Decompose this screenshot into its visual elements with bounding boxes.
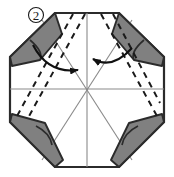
origami-step-figure: 2 [0, 0, 174, 177]
step-number-label: 2 [33, 8, 40, 23]
step-number-badge: 2 [29, 8, 44, 23]
origami-diagram-canvas: 2 [0, 0, 174, 177]
